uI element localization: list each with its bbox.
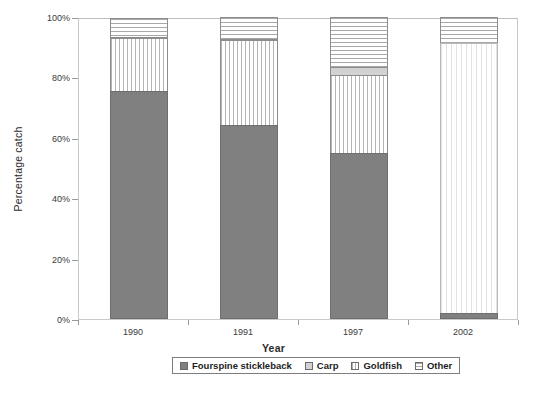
bar-1997 [330, 17, 388, 319]
segment-2002-goldfish [440, 43, 498, 314]
x-tick-label-1997: 1997 [313, 327, 393, 337]
x-axis-title: Year [0, 342, 547, 354]
segment-1997-fourspine-stickleback [330, 153, 388, 319]
x-tick-mark-3 [408, 320, 409, 325]
y-tick-label-20: 20% [26, 255, 70, 265]
legend-label-carp: Carp [317, 360, 339, 371]
legend-item-carp[interactable]: Carp [305, 360, 339, 371]
x-tick-label-1991: 1991 [203, 327, 283, 337]
bar-2002 [440, 17, 498, 319]
light-grey-swatch-icon [305, 362, 313, 370]
y-tick-label-80: 80% [26, 73, 70, 83]
legend-item-goldfish[interactable]: Goldfish [351, 360, 402, 371]
bar-1990 [110, 17, 168, 319]
legend-label-goldfish: Goldfish [363, 360, 402, 371]
segment-1997-other [330, 17, 388, 68]
y-tick-label-40: 40% [26, 194, 70, 204]
x-tick-mark-2 [298, 320, 299, 325]
segment-1990-goldfish [110, 38, 168, 92]
y-axis-title-text: Percentage catch [12, 127, 24, 212]
segment-2002-other [440, 17, 498, 44]
y-tick-label-60: 60% [26, 134, 70, 144]
segment-1991-goldfish [220, 40, 278, 126]
segment-1990-fourspine-stickleback [110, 91, 168, 319]
segment-1991-other [220, 17, 278, 40]
x-tick-mark-right [518, 320, 519, 325]
legend-label-fourspine-stickleback: Fourspine stickleback [192, 360, 292, 371]
x-tick-label-1990: 1990 [93, 327, 173, 337]
chart-figure: Percentage catch 100% 80% 60% 40% 20% 0% [0, 0, 547, 394]
vertical-hatch-swatch-icon [351, 362, 359, 370]
y-axis-title: Percentage catch [6, 0, 30, 338]
segment-2002-fourspine-stickleback [440, 313, 498, 319]
solid-grey-swatch-icon [180, 362, 188, 370]
legend-label-other: Other [427, 360, 452, 371]
x-tick-mark-left [78, 320, 79, 325]
y-tick-label-0: 0% [26, 315, 70, 325]
legend-item-fourspine-stickleback[interactable]: Fourspine stickleback [180, 360, 292, 371]
chart-legend: Fourspine stickleback Carp Goldfish Othe… [172, 357, 460, 374]
horizontal-hatch-swatch-icon [415, 362, 423, 370]
legend-item-other[interactable]: Other [415, 360, 452, 371]
y-tick-label-100: 100% [26, 13, 70, 23]
segment-1997-goldfish [330, 75, 388, 155]
x-tick-mark-1 [188, 320, 189, 325]
x-tick-label-2002: 2002 [423, 327, 503, 337]
plot-area [78, 18, 518, 320]
bar-1991 [220, 17, 278, 319]
segment-1990-other [110, 18, 168, 38]
segment-1991-fourspine-stickleback [220, 125, 278, 319]
